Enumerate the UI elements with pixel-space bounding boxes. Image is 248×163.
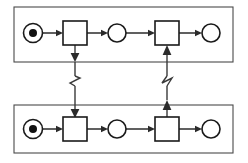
token-marker bbox=[29, 125, 37, 133]
transition-bottom-1[interactable] bbox=[63, 117, 87, 141]
place-bottom-end[interactable] bbox=[202, 120, 220, 138]
place-top-end[interactable] bbox=[202, 24, 220, 42]
diagram-canvas bbox=[0, 0, 248, 163]
transition-bottom-2[interactable] bbox=[155, 117, 179, 141]
transition-top-1[interactable] bbox=[63, 21, 87, 45]
petri-net-diagram bbox=[0, 0, 248, 163]
place-top-start[interactable] bbox=[24, 24, 43, 43]
token-marker bbox=[29, 29, 37, 37]
place-bottom-mid[interactable] bbox=[108, 120, 126, 138]
zigzag-break-right bbox=[162, 76, 172, 86]
zigzag-break-left bbox=[70, 76, 80, 86]
place-top-mid[interactable] bbox=[108, 24, 126, 42]
place-bottom-start[interactable] bbox=[24, 120, 43, 139]
transition-top-2[interactable] bbox=[155, 21, 179, 45]
